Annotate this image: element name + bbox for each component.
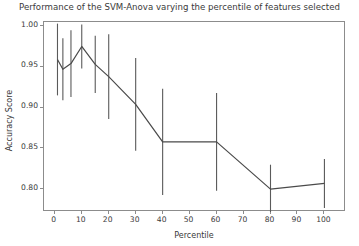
x-tick-label: 60 bbox=[204, 216, 228, 224]
y-tick-label: 0.90 bbox=[21, 102, 38, 110]
x-tick-label: 100 bbox=[311, 216, 335, 224]
plot-area bbox=[43, 21, 345, 211]
data-series-plot bbox=[44, 22, 346, 212]
y-axis-tick-labels: 0.800.850.900.951.00 bbox=[0, 0, 38, 246]
x-axis-label: Percentile bbox=[43, 231, 345, 240]
x-tick-label: 80 bbox=[258, 216, 282, 224]
y-tick-label: 0.95 bbox=[21, 61, 38, 69]
series-svm-anova-accuracy bbox=[57, 24, 324, 212]
chart-title: Performance of the SVM-Anova varying the… bbox=[0, 2, 359, 12]
x-tick-label: 30 bbox=[123, 216, 147, 224]
x-tick-label: 10 bbox=[69, 216, 93, 224]
chart-figure: Performance of the SVM-Anova varying the… bbox=[0, 0, 359, 246]
y-tick-label: 1.00 bbox=[21, 21, 38, 29]
series-line bbox=[57, 46, 324, 189]
y-tick-label: 0.80 bbox=[21, 184, 38, 192]
x-tick-label: 70 bbox=[231, 216, 255, 224]
x-tick-label: 0 bbox=[42, 216, 66, 224]
x-tick-label: 90 bbox=[284, 216, 308, 224]
x-tick-label: 20 bbox=[96, 216, 120, 224]
x-tick-label: 50 bbox=[177, 216, 201, 224]
x-tick-label: 40 bbox=[150, 216, 174, 224]
y-tick-label: 0.85 bbox=[21, 143, 38, 151]
